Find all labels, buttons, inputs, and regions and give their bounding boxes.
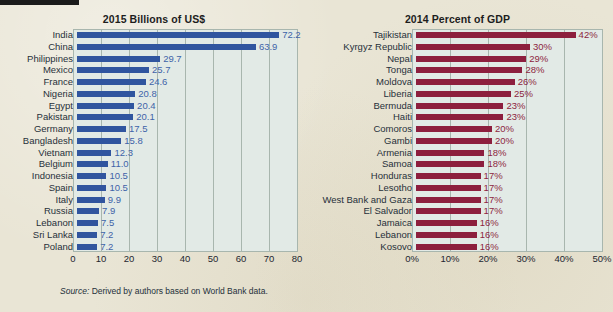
bar-track: 10.5: [77, 170, 304, 182]
bar-row: Jamaica16%: [306, 217, 609, 229]
bar-track: 9.9: [77, 194, 304, 206]
top-black-rule: [0, 0, 79, 5]
bar-value-label: 10.5: [106, 170, 128, 182]
bar-row: Lebanon16%: [306, 229, 609, 241]
bar-row: Russia7.9: [4, 205, 304, 217]
bar-row: Vietnam12.3: [4, 147, 304, 159]
category-label: Liberia: [306, 88, 416, 100]
bar-value-label: 16%: [477, 241, 499, 253]
bar: [77, 91, 135, 97]
bar-value-label: 23%: [503, 100, 525, 112]
category-label: Nigeria: [4, 88, 77, 100]
plot-area-left: India72.2China63.9Philippines29.7Mexico2…: [4, 29, 304, 252]
category-label: Lesotho: [306, 182, 416, 194]
bar-track: 17.5: [77, 123, 304, 135]
category-label: Haiti: [306, 111, 416, 123]
chart-remittances-percent-gdp: 2014 Percent of GDP Tajikistan42%Kyrgyz …: [306, 12, 609, 266]
x-axis-left: 01020304050607080: [4, 252, 304, 266]
category-label: Egypt: [4, 100, 77, 112]
bar-track: 20%: [416, 135, 609, 147]
bar-value-label: 7.9: [99, 205, 115, 217]
bar-row: Nepal29%: [306, 53, 609, 65]
bar-row: Germany17.5: [4, 123, 304, 135]
bar-track: 15.8: [77, 135, 304, 147]
bar-value-label: 25.7: [149, 64, 171, 76]
bar-track: 16%: [416, 229, 609, 241]
category-label: Armenia: [306, 147, 416, 159]
bar-track: 25.7: [77, 64, 304, 76]
category-label: Gambi: [306, 135, 416, 147]
plot-area-right: Tajikistan42%Kyrgyz Republic30%Nepal29%T…: [306, 29, 609, 252]
bar-track: 72.2: [77, 29, 304, 41]
chart-title-left: 2015 Billions of US$: [4, 12, 304, 26]
category-label: Lebanon: [4, 217, 77, 229]
x-axis-right: 0%10%20%30%40%50%: [306, 252, 609, 266]
category-label: El Salvador: [306, 205, 416, 217]
category-label: Belgium: [4, 158, 77, 170]
category-label: Philippines: [4, 53, 77, 65]
category-label: Mexico: [4, 64, 77, 76]
bar-track: 7.2: [77, 241, 304, 253]
bar: [416, 197, 481, 203]
bar-row: Bangladesh15.8: [4, 135, 304, 147]
bar: [416, 185, 481, 191]
bar-row: Tajikistan42%: [306, 29, 609, 41]
x-tick-label: 20: [124, 253, 135, 264]
bar-row: Gambi20%: [306, 135, 609, 147]
bar-track: 11.0: [77, 158, 304, 170]
bar: [416, 79, 515, 85]
bar-value-label: 10.5: [106, 182, 128, 194]
bar-row: Armenia18%: [306, 147, 609, 159]
bar: [77, 185, 106, 191]
bar-row: Samoa18%: [306, 158, 609, 170]
x-tick-label: 10%: [440, 253, 459, 264]
bar: [416, 173, 481, 179]
bar-track: 7.2: [77, 229, 304, 241]
bar-track: 20%: [416, 123, 609, 135]
bar-track: 7.5: [77, 217, 304, 229]
bar: [77, 197, 105, 203]
bar-value-label: 24.6: [146, 76, 168, 88]
bar: [416, 126, 492, 132]
bar-value-label: 7.2: [97, 229, 113, 241]
category-label: Kosovo: [306, 241, 416, 253]
bar: [416, 56, 526, 62]
bar-value-label: 17%: [481, 182, 503, 194]
bar-value-label: 16%: [477, 217, 499, 229]
bar-row: India72.2: [4, 29, 304, 41]
bar: [77, 138, 121, 144]
bar-value-label: 17.5: [126, 123, 148, 135]
bar-value-label: 16%: [477, 229, 499, 241]
category-label: Bermuda: [306, 100, 416, 112]
bar-value-label: 26%: [515, 76, 537, 88]
chart-remittances-billions-usd: 2015 Billions of US$ India72.2China63.9P…: [4, 12, 304, 266]
bar: [416, 114, 503, 120]
bar-row: Poland7.2: [4, 241, 304, 253]
category-label: Moldova: [306, 76, 416, 88]
bar: [77, 244, 97, 250]
source-label: Source:: [60, 286, 89, 296]
x-tick-label: 10: [96, 253, 107, 264]
bar: [77, 114, 133, 120]
bar: [416, 138, 492, 144]
x-tick-label: 40: [180, 253, 191, 264]
bar-value-label: 23%: [503, 111, 525, 123]
category-label: China: [4, 41, 77, 53]
bar-track: 20.1: [77, 111, 304, 123]
category-label: Samoa: [306, 158, 416, 170]
bar-row: Sri Lanka7.2: [4, 229, 304, 241]
bar-track: 29.7: [77, 53, 304, 65]
category-label: Jamaica: [306, 217, 416, 229]
bar: [77, 67, 149, 73]
category-label: Spain: [4, 182, 77, 194]
category-label: Germany: [4, 123, 77, 135]
category-label: Vietnam: [4, 147, 77, 159]
bar-row: Egypt20.4: [4, 100, 304, 112]
source-note: Source: Derived by authors based on Worl…: [60, 286, 268, 296]
bar-value-label: 28%: [522, 64, 544, 76]
category-label: Russia: [4, 205, 77, 217]
bar-track: 24.6: [77, 76, 304, 88]
bar-row: Kosovo16%: [306, 241, 609, 253]
category-label: Bangladesh: [4, 135, 77, 147]
bar-value-label: 7.2: [97, 241, 113, 253]
